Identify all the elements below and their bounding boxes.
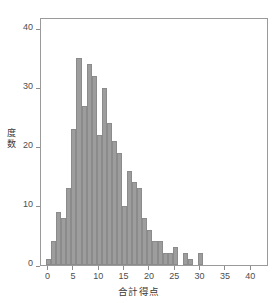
x-tick-mark <box>224 266 225 270</box>
x-tick-label: 5 <box>63 272 83 281</box>
y-axis-title: 度 数 <box>5 128 18 150</box>
x-axis: 0510152025303540 <box>40 266 268 286</box>
histogram-chart: 010203040 度 数 0510152025303540 合計得点 <box>0 0 277 303</box>
x-tick-mark <box>123 266 124 270</box>
x-tick-label: 10 <box>88 272 108 281</box>
x-tick-label: 20 <box>139 272 159 281</box>
y-tick-label: 40 <box>23 23 33 32</box>
x-tick-label: 35 <box>215 272 235 281</box>
x-tick-label: 25 <box>164 272 184 281</box>
y-tick-label: 30 <box>23 82 33 91</box>
x-tick-label: 0 <box>38 272 58 281</box>
x-tick-label: 30 <box>190 272 210 281</box>
x-tick-mark <box>174 266 175 270</box>
x-tick-label: 40 <box>240 272 260 281</box>
y-tick-label: 20 <box>23 141 33 150</box>
histogram-bar <box>198 253 203 265</box>
x-axis-title: 合計得点 <box>0 284 277 298</box>
histogram-bar <box>188 259 193 265</box>
x-tick-label: 15 <box>114 272 134 281</box>
y-axis-title-char-2: 数 <box>5 139 18 150</box>
x-tick-mark <box>250 266 251 270</box>
y-tick-label: 10 <box>23 200 33 209</box>
y-tick-label: 0 <box>28 259 33 268</box>
x-tick-mark <box>47 266 48 270</box>
histogram-bar <box>173 247 178 265</box>
bars-layer <box>41 19 267 265</box>
x-tick-mark <box>98 266 99 270</box>
x-tick-mark <box>148 266 149 270</box>
y-axis-title-char-1: 度 <box>5 128 18 139</box>
plot-area <box>40 18 268 266</box>
x-tick-mark <box>199 266 200 270</box>
x-tick-mark <box>72 266 73 270</box>
